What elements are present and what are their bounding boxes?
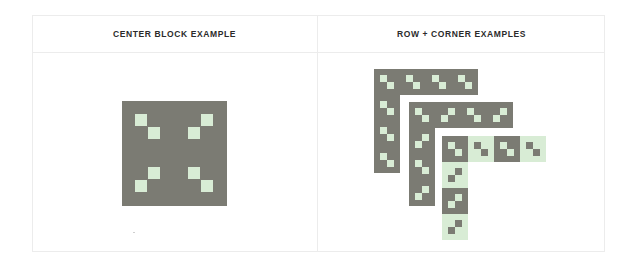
pattern-square [387, 108, 394, 115]
pattern-square [415, 193, 422, 200]
pattern-square [465, 82, 472, 89]
light-square [201, 180, 213, 192]
pattern-square [380, 127, 387, 134]
pattern-square [422, 134, 429, 141]
pattern-square [415, 160, 422, 167]
light-square [148, 127, 160, 139]
pattern-square [380, 101, 387, 108]
pattern-square [387, 82, 394, 89]
pattern-square [413, 82, 420, 89]
pattern-square [380, 153, 387, 160]
pattern-square [441, 115, 448, 122]
pattern-square [422, 115, 429, 122]
light-square [201, 114, 213, 126]
pattern-square [422, 186, 429, 193]
pattern-square [422, 167, 429, 174]
light-square [148, 167, 160, 179]
pattern-square [448, 201, 455, 208]
pattern-square [448, 108, 455, 115]
pattern-square [455, 220, 462, 227]
pattern-square [448, 142, 455, 149]
light-square [188, 127, 200, 139]
pattern-square [387, 134, 394, 141]
pattern-square [448, 175, 455, 182]
pattern-square [526, 142, 533, 149]
pattern-square [439, 82, 446, 89]
pattern-square [474, 142, 481, 149]
row-corner-examples [374, 69, 546, 240]
light-square [135, 180, 147, 192]
pattern-square [493, 115, 500, 122]
pattern-square [406, 75, 413, 82]
pattern-square [474, 115, 481, 122]
pattern-square [500, 108, 507, 115]
pattern-square [387, 160, 394, 167]
pattern-square [448, 227, 455, 234]
pattern-square [500, 142, 507, 149]
pattern-square [415, 141, 422, 148]
pattern-square [455, 168, 462, 175]
center-block-example [122, 101, 227, 206]
stray-mark [133, 232, 135, 233]
light-square [135, 114, 147, 126]
pattern-square [507, 149, 514, 156]
pattern-square [380, 75, 387, 82]
pattern-square [455, 194, 462, 201]
pattern-square [481, 149, 488, 156]
pattern-square [458, 75, 465, 82]
pattern-square [415, 108, 422, 115]
diagram-canvas [0, 0, 639, 268]
light-square [188, 167, 200, 179]
pattern-square [455, 149, 462, 156]
pattern-square [432, 75, 439, 82]
pattern-square [533, 149, 540, 156]
pattern-square [467, 108, 474, 115]
